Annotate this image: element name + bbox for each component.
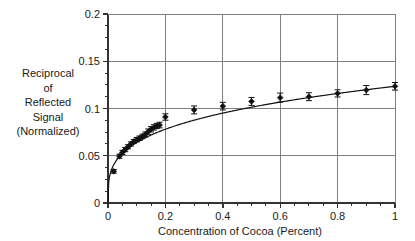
data-point-marker	[249, 99, 255, 105]
x-tick-label: 0.6	[273, 210, 288, 222]
y-tick-label: 0.05	[79, 150, 100, 162]
chart-figure: Reciprocal of Reflected Signal (Normaliz…	[0, 0, 415, 241]
minor-ticks	[105, 26, 381, 206]
y-tick-label: 0.2	[85, 8, 100, 20]
x-tick-label: 0.4	[215, 210, 230, 222]
data-point-marker	[363, 87, 369, 93]
major-ticks	[103, 14, 395, 208]
x-tick-label: 0.2	[158, 210, 173, 222]
grid-lines	[108, 14, 395, 203]
data-point-marker	[191, 107, 197, 113]
x-tick-label: 0.8	[330, 210, 345, 222]
x-tick-label: 0	[105, 210, 111, 222]
y-tick-label: 0	[94, 197, 100, 209]
y-axis-tick-labels: 00.050.10.150.2	[79, 8, 100, 209]
x-axis-tick-labels: 00.20.40.60.81	[105, 210, 398, 222]
data-point-marker	[277, 95, 283, 101]
y-tick-label: 0.15	[79, 55, 100, 67]
data-point-marker	[163, 114, 169, 120]
data-point-marker	[392, 83, 398, 89]
x-tick-label: 1	[392, 210, 398, 222]
x-axis-title: Concentration of Cocoa (Percent)	[158, 225, 322, 237]
chart-plot: 00.20.40.60.81 00.050.10.150.2 Concentra…	[0, 0, 415, 241]
data-point-marker	[306, 94, 312, 100]
y-tick-label: 0.1	[85, 103, 100, 115]
data-point-marker	[335, 90, 341, 96]
